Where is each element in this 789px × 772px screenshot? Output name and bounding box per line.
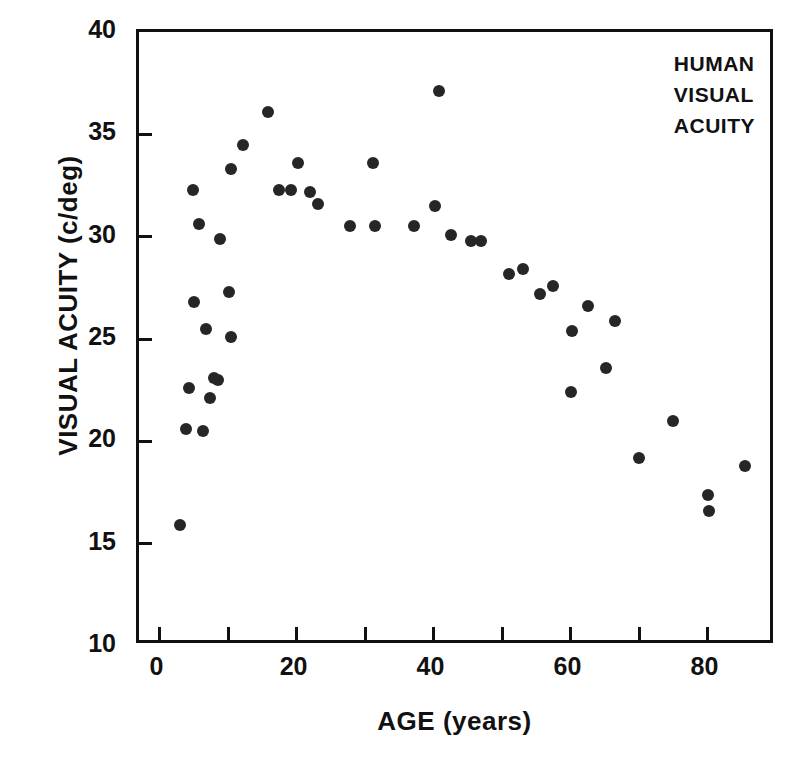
data-point xyxy=(237,139,249,151)
x-axis-tick xyxy=(295,627,298,640)
y-axis-tick-label: 15 xyxy=(88,526,116,555)
x-axis-tick xyxy=(501,627,504,640)
x-axis-tick xyxy=(569,627,572,640)
data-point xyxy=(187,184,199,196)
y-axis-tick xyxy=(139,542,152,545)
data-point xyxy=(534,288,546,300)
chart-annotation: HUMAN VISUAL ACUITY xyxy=(674,48,755,141)
x-axis-tick-label: 20 xyxy=(280,652,308,681)
data-point xyxy=(408,220,420,232)
data-point xyxy=(566,325,578,337)
data-point xyxy=(445,229,457,241)
x-axis-title: AGE (years) xyxy=(136,706,773,737)
data-point xyxy=(633,452,645,464)
x-axis-tick xyxy=(432,627,435,640)
data-point xyxy=(739,460,751,472)
y-axis-tick-label: 20 xyxy=(88,424,116,453)
y-axis-tick-label: 35 xyxy=(88,117,116,146)
data-point xyxy=(600,362,612,374)
data-point xyxy=(180,423,192,435)
data-point xyxy=(225,331,237,343)
y-axis-tick-label: 10 xyxy=(88,629,116,658)
data-point xyxy=(214,233,226,245)
x-axis-tick-label: 80 xyxy=(691,652,719,681)
data-point xyxy=(433,85,445,97)
x-axis-tick xyxy=(638,627,641,640)
data-point xyxy=(609,315,621,327)
data-point xyxy=(193,218,205,230)
data-point xyxy=(285,184,297,196)
x-axis-tick-label: 40 xyxy=(417,652,445,681)
data-point xyxy=(262,106,274,118)
data-point xyxy=(273,184,285,196)
data-point xyxy=(667,415,679,427)
data-point xyxy=(197,425,209,437)
data-point xyxy=(204,392,216,404)
data-point xyxy=(188,296,200,308)
y-axis-title: VISUAL ACUITY (c/deg) xyxy=(53,6,84,606)
annotation-line-2: VISUAL xyxy=(674,79,755,110)
y-axis-tick xyxy=(139,133,152,136)
data-point xyxy=(183,382,195,394)
x-axis-tick xyxy=(227,627,230,640)
data-point xyxy=(702,489,714,501)
data-point xyxy=(369,220,381,232)
data-point xyxy=(367,157,379,169)
data-point xyxy=(312,198,324,210)
data-point xyxy=(475,235,487,247)
data-point xyxy=(200,323,212,335)
y-axis-tick-label: 25 xyxy=(88,322,116,351)
data-point xyxy=(565,386,577,398)
data-point xyxy=(582,300,594,312)
annotation-line-1: HUMAN xyxy=(674,48,755,79)
x-axis-tick xyxy=(706,627,709,640)
data-point xyxy=(304,186,316,198)
x-axis-tick-label: 60 xyxy=(554,652,582,681)
x-axis-tick xyxy=(364,627,367,640)
y-axis-tick-label: 30 xyxy=(88,219,116,248)
annotation-line-3: ACUITY xyxy=(674,110,755,141)
y-axis-tick-label: 40 xyxy=(88,15,116,44)
x-axis-tick-label: 0 xyxy=(150,652,164,681)
y-axis-tick xyxy=(139,235,152,238)
data-point xyxy=(517,263,529,275)
data-point xyxy=(223,286,235,298)
data-point xyxy=(344,220,356,232)
y-axis-tick xyxy=(139,440,152,443)
scatter-chart-figure: 10152025303540 VISUAL ACUITY (c/deg) 020… xyxy=(0,0,789,772)
y-axis-tick xyxy=(139,338,152,341)
data-point xyxy=(174,519,186,531)
data-point xyxy=(703,505,715,517)
data-point xyxy=(547,280,559,292)
data-point xyxy=(503,268,515,280)
x-axis-tick xyxy=(158,627,161,640)
data-point xyxy=(429,200,441,212)
x-axis-tick-labels: 020406080 xyxy=(136,652,773,692)
data-point xyxy=(292,157,304,169)
data-point xyxy=(212,374,224,386)
data-point xyxy=(225,163,237,175)
